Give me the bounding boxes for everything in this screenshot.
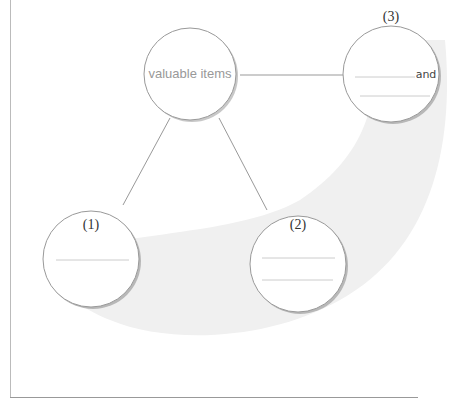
diagram-canvas	[0, 0, 466, 401]
node-1-number: (1)	[71, 217, 111, 233]
node-3-and-text: and	[414, 68, 438, 81]
node-3-number: (3)	[371, 9, 411, 25]
connector-center-1	[123, 118, 170, 205]
connector-center-2	[219, 118, 267, 210]
node-2-number: (2)	[278, 217, 318, 233]
center-node-label: valuable items	[144, 66, 236, 81]
